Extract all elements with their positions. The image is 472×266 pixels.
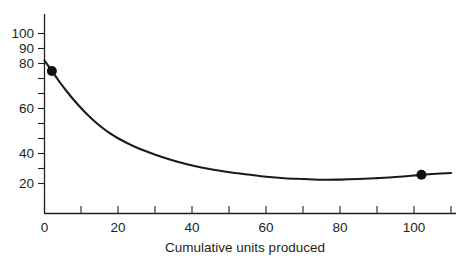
- y-tick-label-40: 40: [19, 146, 34, 161]
- y-tick-label-80: 80: [19, 56, 34, 71]
- learning-curve-chart: 100 90 80 60 40 20 0 20 40 60 80 100 Cum…: [0, 0, 472, 266]
- y-tick-label-90: 90: [19, 41, 34, 56]
- x-tick-label-60: 60: [258, 220, 273, 235]
- x-tick-label-100: 100: [403, 220, 426, 235]
- x-axis-title: Cumulative units produced: [165, 240, 325, 255]
- x-tick-marks: [45, 206, 452, 214]
- learning-curve-line: [45, 61, 452, 180]
- x-tick-label-80: 80: [332, 220, 347, 235]
- y-tick-marks: [38, 34, 45, 184]
- data-point-marker-2: [416, 170, 426, 180]
- y-tick-label-60: 60: [19, 101, 34, 116]
- y-tick-label-100: 100: [11, 26, 34, 41]
- x-tick-label-20: 20: [110, 220, 125, 235]
- chart-container: 100 90 80 60 40 20 0 20 40 60 80 100 Cum…: [0, 0, 472, 266]
- data-point-marker-1: [47, 66, 57, 76]
- y-tick-label-20: 20: [19, 176, 34, 191]
- data-point-markers: [47, 66, 427, 180]
- x-tick-label-0: 0: [41, 220, 49, 235]
- x-tick-label-40: 40: [184, 220, 199, 235]
